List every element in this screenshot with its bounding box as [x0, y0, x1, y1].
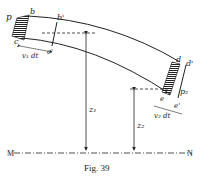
label-e-prime: e'	[174, 102, 180, 110]
label-z1: z₁	[88, 105, 96, 114]
figure-39-diagram: p b b' c c' v₁ dt z₁ d d' p₂ e e' v₂ dt …	[0, 0, 209, 180]
label-v2dt: v₂ dt	[154, 112, 170, 120]
label-b-prime: b'	[57, 13, 64, 22]
label-d: d	[176, 55, 181, 64]
label-c-prime: c'	[47, 48, 53, 56]
label-p1: p	[6, 12, 12, 22]
label-p2: p₂	[180, 87, 188, 96]
label-v1dt: v₁ dt	[22, 52, 38, 60]
label-M: M	[7, 149, 14, 158]
label-e: e	[160, 95, 164, 103]
stream-tube-diagram: p b b' c c' v₁ dt z₁ d d' p₂ e e' v₂ dt …	[0, 0, 209, 180]
label-d-prime: d'	[186, 59, 193, 68]
label-c: c	[14, 37, 19, 46]
label-N: N	[187, 149, 193, 158]
tube-lower-wall	[22, 38, 170, 94]
figure-caption: Fig. 39	[84, 163, 110, 173]
label-b: b	[30, 7, 35, 16]
label-z2: z₂	[136, 121, 144, 130]
right-pressure-hatch	[162, 62, 180, 95]
